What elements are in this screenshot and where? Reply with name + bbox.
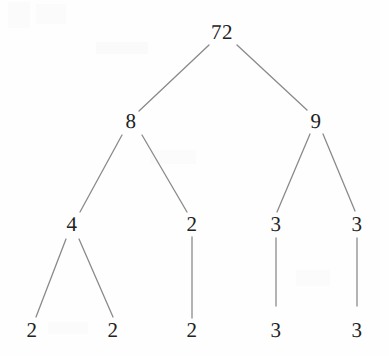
tree-node-n2: 9 [311,111,322,132]
tree-node-n4: 2 [187,214,198,235]
tree-edges [0,0,389,356]
tree-node-n6: 3 [352,214,363,235]
tree-edge-n2-n5 [277,134,310,212]
scan-artifact [296,270,330,286]
tree-edge-n3-n8 [79,239,113,317]
tree-node-n10: 3 [271,320,282,341]
tree-edge-n2-n6 [323,134,355,211]
tree-node-n11: 3 [352,320,363,341]
factor-tree-figure: 7289423322233 [0,0,389,356]
scan-artifact [96,42,148,54]
tree-edge-n1-n4 [142,135,187,212]
tree-edge-n0-n1 [139,45,209,111]
tree-node-n9: 2 [187,320,198,341]
tree-node-n3: 4 [67,214,78,235]
scan-artifact [36,4,66,24]
tree-node-n1: 8 [126,111,137,132]
tree-edge-n0-n2 [237,45,307,110]
tree-node-n7: 2 [27,320,38,341]
tree-edge-n1-n3 [80,135,122,212]
tree-node-n5: 3 [271,214,282,235]
scan-artifact [48,322,88,334]
scan-artifact [150,150,196,164]
scan-artifact [8,2,30,28]
tree-edge-n3-n7 [36,239,66,317]
tree-node-n8: 2 [108,320,119,341]
tree-node-n0: 72 [211,22,233,43]
